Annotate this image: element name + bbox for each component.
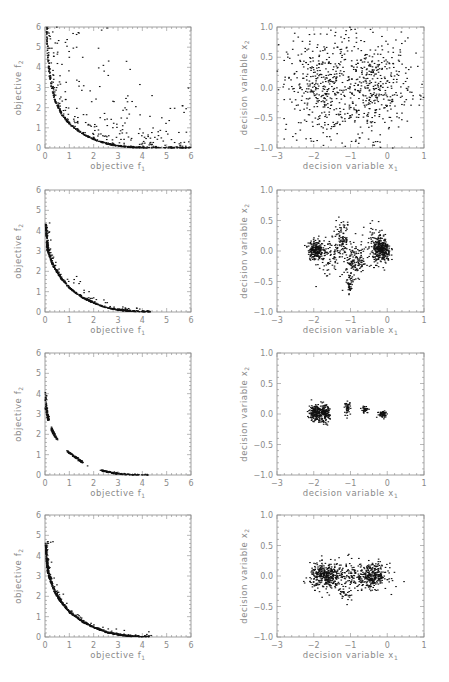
panel-row4-left: 01234560123456objective f1objective f2 (13, 511, 194, 661)
y-tick-label: 1 (36, 451, 41, 460)
panel-row3-right: −3−2−101−1.0−0.50.00.51.0decision variab… (239, 349, 427, 499)
y-tick-label: 4 (36, 552, 41, 561)
scatter-points (45, 541, 152, 637)
plot-frame (45, 190, 191, 312)
y-tick-label: −0.5 (254, 278, 273, 287)
y-tick-label: 0.5 (260, 380, 273, 389)
scatter-points (44, 392, 148, 476)
y-tick-label: 5 (36, 206, 41, 215)
x-axis-label: objective f1 (90, 488, 146, 499)
y-tick-label: 1.0 (260, 511, 273, 520)
x-tick-label: −1 (345, 152, 357, 161)
x-tick-label: 0 (42, 641, 47, 650)
x-axis-label: objective f1 (90, 161, 146, 172)
y-tick-label: 1.0 (260, 23, 273, 32)
y-tick-label: 2 (36, 267, 41, 276)
x-tick-label: 4 (140, 479, 145, 488)
tick-marks (45, 190, 191, 312)
x-tick-label: 0 (42, 152, 47, 161)
y-tick-label: 4 (36, 390, 41, 399)
y-tick-label: 3 (36, 84, 41, 93)
tick-marks (45, 27, 191, 148)
y-axis-label: objective f2 (13, 60, 24, 116)
y-tick-label: 0.5 (260, 217, 273, 226)
y-tick-label: 1 (36, 288, 41, 297)
scatter-points (304, 217, 393, 296)
x-tick-label: 5 (164, 316, 169, 325)
y-tick-label: 6 (36, 511, 41, 520)
x-tick-label: −3 (271, 641, 283, 650)
x-tick-label: 0 (385, 479, 390, 488)
x-tick-label: 5 (164, 641, 169, 650)
y-axis-label: objective f2 (13, 548, 24, 604)
x-tick-label: −3 (271, 152, 283, 161)
y-tick-label: 1.0 (260, 186, 273, 195)
y-axis-label: decision variable x2 (239, 528, 250, 624)
x-axis-label: decision variable x1 (303, 161, 399, 172)
y-tick-label: −0.5 (254, 114, 273, 123)
x-tick-label: 3 (115, 152, 120, 161)
x-tick-label: 1 (421, 641, 426, 650)
y-tick-label: 5 (36, 43, 41, 52)
x-tick-label: 6 (188, 641, 193, 650)
x-tick-label: −1 (345, 316, 357, 325)
y-tick-label: 5 (36, 369, 41, 378)
x-axis-label: decision variable x1 (303, 325, 399, 336)
x-tick-label: 0 (385, 641, 390, 650)
scatter-points (45, 222, 151, 312)
x-tick-label: 3 (115, 479, 120, 488)
x-axis-label: decision variable x1 (303, 650, 399, 661)
y-tick-label: 2 (36, 592, 41, 601)
panel-row4-right: −3−2−101−1.0−0.50.00.51.0decision variab… (239, 511, 427, 661)
y-tick-label: 3 (36, 410, 41, 419)
y-axis-label: objective f2 (13, 223, 24, 279)
x-tick-label: −3 (271, 316, 283, 325)
y-tick-label: 5 (36, 531, 41, 540)
plot-frame (45, 515, 191, 637)
y-tick-label: −1.0 (254, 144, 273, 153)
x-tick-label: 3 (115, 641, 120, 650)
y-tick-label: 0.5 (260, 542, 273, 551)
y-tick-label: −0.5 (254, 441, 273, 450)
y-tick-label: 0 (36, 471, 41, 480)
x-tick-label: 1 (421, 152, 426, 161)
y-tick-label: 0 (36, 308, 41, 317)
scatter-points (46, 27, 192, 149)
y-tick-label: 3 (36, 247, 41, 256)
x-tick-label: 0 (42, 316, 47, 325)
x-tick-label: −2 (308, 152, 320, 161)
y-tick-label: 6 (36, 23, 41, 32)
y-tick-label: 3 (36, 572, 41, 581)
x-tick-label: −2 (308, 641, 320, 650)
plot-frame (45, 27, 191, 148)
y-axis-label: decision variable x2 (239, 203, 250, 299)
x-tick-label: 5 (164, 152, 169, 161)
y-tick-label: 0.0 (260, 572, 273, 581)
y-tick-label: 1.0 (260, 349, 273, 358)
y-tick-label: 4 (36, 227, 41, 236)
x-tick-label: 4 (140, 641, 145, 650)
x-tick-label: 2 (91, 641, 96, 650)
y-axis-label: objective f2 (13, 386, 24, 442)
scatter-points (277, 27, 425, 149)
x-tick-label: 1 (67, 479, 72, 488)
figure: 01234560123456objective f1objective f2−3… (0, 0, 449, 682)
y-tick-label: 0.0 (260, 84, 273, 93)
x-tick-label: 0 (42, 479, 47, 488)
y-tick-label: 2 (36, 430, 41, 439)
panel-row1-right: −3−2−101−1.0−0.50.00.51.0decision variab… (239, 23, 427, 172)
x-tick-label: 6 (188, 152, 193, 161)
x-tick-label: −3 (271, 479, 283, 488)
x-axis-label: decision variable x1 (303, 488, 399, 499)
x-tick-label: −2 (308, 316, 320, 325)
x-axis-label: objective f1 (90, 650, 146, 661)
y-tick-label: 0 (36, 633, 41, 642)
x-tick-label: 5 (164, 479, 169, 488)
y-tick-label: 0.0 (260, 410, 273, 419)
x-tick-label: 2 (91, 152, 96, 161)
x-tick-label: −1 (345, 479, 357, 488)
x-tick-label: 4 (140, 152, 145, 161)
x-tick-label: 1 (67, 152, 72, 161)
y-tick-label: 1 (36, 613, 41, 622)
y-tick-label: 0.0 (260, 247, 273, 256)
